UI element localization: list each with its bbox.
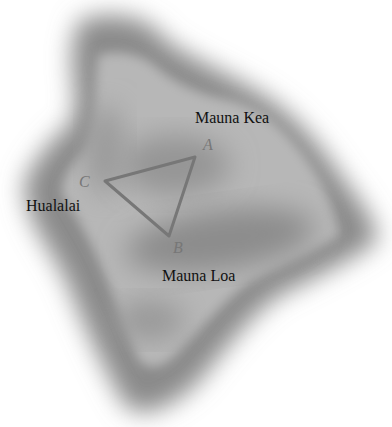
- point-b: B: [173, 240, 183, 256]
- label-hualalai: Hualalai: [26, 198, 80, 214]
- point-a: A: [203, 137, 213, 153]
- label-mauna-loa: Mauna Loa: [162, 268, 235, 284]
- shade-band-south: [115, 300, 185, 340]
- label-mauna-kea: Mauna Kea: [195, 110, 269, 126]
- point-c: C: [79, 174, 90, 190]
- shade-band-upper: [120, 135, 230, 195]
